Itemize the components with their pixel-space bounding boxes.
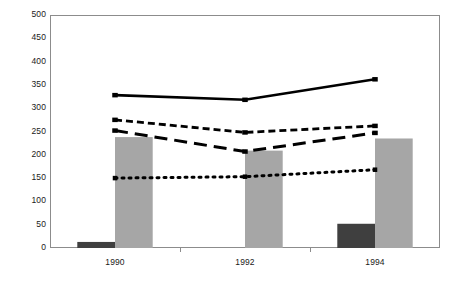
solid-line-series [115,79,375,100]
y-tick-label: 0 [2,243,46,252]
y-tick-label: 200 [2,150,46,159]
y-tick-label: 100 [2,196,46,205]
chart-container: Latvia 500450400350300250200150100500 19… [0,0,463,289]
bar [77,242,115,248]
y-tick-label: 400 [2,57,46,66]
bar [245,151,283,248]
y-tick-label: 150 [2,173,46,182]
data-point-marker [112,93,118,98]
bar [337,224,375,248]
y-axis: 500450400350300250200150100500 [0,0,46,289]
data-point-marker [242,98,248,103]
data-point-marker [243,174,248,179]
data-point-marker [113,176,118,181]
data-point-marker [242,130,248,135]
y-tick-label: 300 [2,103,46,112]
data-point-marker [372,77,378,82]
data-point-marker [372,131,378,136]
x-tick-mark [310,248,311,252]
x-tick-label: 1990 [85,258,145,267]
data-point-marker [373,167,378,172]
data-point-marker [242,149,248,154]
y-tick-label: 350 [2,80,46,89]
data-point-marker [112,128,118,133]
x-tick-mark [180,248,181,252]
y-tick-label: 500 [2,10,46,19]
y-tick-label: 50 [2,220,46,229]
data-point-marker [372,124,378,129]
bar [375,138,413,248]
y-tick-label: 450 [2,33,46,42]
bar [115,137,153,248]
x-tick-label: 1992 [215,258,275,267]
data-point-marker [112,118,118,123]
plot-area [50,15,440,248]
x-tick-label: 1994 [345,258,405,267]
y-tick-label: 250 [2,127,46,136]
